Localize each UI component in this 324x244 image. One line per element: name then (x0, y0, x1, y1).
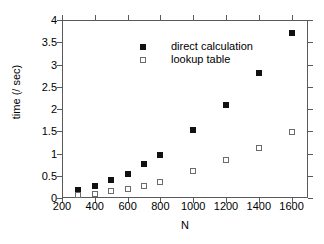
data-point (125, 171, 131, 177)
y-axis-tick-labels: 00.511.522.533.54 (26, 20, 57, 198)
y-tick-label: 0.5 (42, 170, 57, 181)
plot-area: direct calculation lookup table (62, 20, 308, 198)
data-point (256, 145, 262, 151)
x-tick-mark-top (193, 15, 194, 20)
data-point (223, 157, 229, 163)
y-tick-mark-right (308, 154, 313, 155)
data-point (75, 192, 81, 198)
data-point (157, 152, 163, 158)
y-tick-mark-right (308, 131, 313, 132)
x-tick-mark-top (95, 15, 96, 20)
x-tick-mark-top (160, 15, 161, 20)
y-tick-label: 2.5 (42, 81, 57, 92)
y-tick-mark (57, 176, 62, 177)
x-tick-label: 1600 (279, 201, 303, 212)
y-tick-mark (57, 87, 62, 88)
legend-label-direct-calculation: direct calculation (171, 41, 253, 52)
legend-label-lookup-table: lookup table (171, 54, 230, 65)
x-tick-label: 1400 (247, 201, 271, 212)
data-point (157, 179, 163, 185)
data-point (289, 129, 295, 135)
data-point (108, 188, 114, 194)
data-point (256, 70, 262, 76)
legend-item-direct-calculation: direct calculation (140, 41, 290, 52)
y-tick-mark-right (308, 176, 313, 177)
y-tick-mark (57, 65, 62, 66)
x-tick-mark-top (226, 15, 227, 20)
y-tick-mark-right (308, 20, 313, 21)
y-tick-mark (57, 20, 62, 21)
x-axis-title: N (62, 219, 308, 231)
y-tick-mark-right (308, 42, 313, 43)
data-point (108, 177, 114, 183)
y-tick-mark-right (308, 198, 313, 199)
y-tick-mark (57, 42, 62, 43)
x-tick-label: 200 (53, 201, 71, 212)
data-point (92, 191, 98, 197)
data-point (289, 30, 295, 36)
y-tick-mark (57, 109, 62, 110)
y-tick-mark (57, 131, 62, 132)
x-tick-label: 600 (118, 201, 136, 212)
data-point (141, 183, 147, 189)
y-tick-mark-right (308, 109, 313, 110)
data-point (190, 127, 196, 133)
data-point (141, 161, 147, 167)
y-axis-title: time (/ sec) (10, 32, 22, 152)
y-tick-mark (57, 154, 62, 155)
chart-figure: 00.511.522.533.54 time (/ sec) direct ca… (0, 0, 324, 244)
x-tick-label: 1200 (214, 201, 238, 212)
x-tick-mark-top (128, 15, 129, 20)
x-tick-mark-top (62, 15, 63, 20)
data-point (125, 186, 131, 192)
x-tick-label: 1000 (181, 201, 205, 212)
data-point (223, 102, 229, 108)
data-point (92, 183, 98, 189)
y-tick-mark-right (308, 87, 313, 88)
x-tick-mark-top (292, 15, 293, 20)
x-tick-label: 800 (151, 201, 169, 212)
x-tick-mark-top (259, 15, 260, 20)
x-tick-label: 400 (86, 201, 104, 212)
x-axis-tick-labels: 2004006008001000120014001600 (62, 201, 308, 215)
legend-item-lookup-table: lookup table (140, 54, 290, 65)
chart-legend: direct calculation lookup table (140, 41, 290, 67)
data-point (190, 168, 196, 174)
y-tick-label: 3.5 (42, 37, 57, 48)
legend-marker-open-square-icon (140, 57, 146, 63)
y-tick-label: 1.5 (42, 126, 57, 137)
y-tick-mark-right (308, 65, 313, 66)
legend-marker-filled-square-icon (140, 44, 146, 50)
